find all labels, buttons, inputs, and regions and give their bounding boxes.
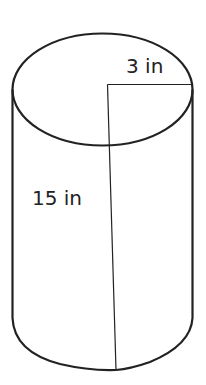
cylinder-top-ellipse: [13, 34, 193, 146]
cylinder-diagram: 3 in 15 in: [0, 0, 206, 385]
height-line: [108, 85, 117, 371]
cylinder-right-side: [116, 90, 193, 371]
height-label: 15 in: [32, 186, 82, 210]
radius-label: 3 in: [126, 54, 163, 78]
cylinder-left-side: [13, 90, 117, 371]
